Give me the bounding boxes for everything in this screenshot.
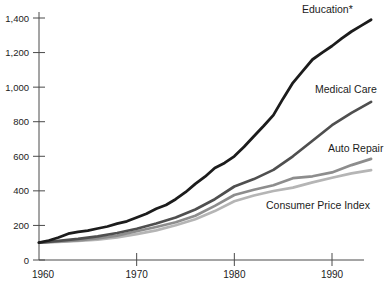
x-axis-tick-label: 1980 <box>223 269 246 280</box>
series-label-consumer-price-index: Consumer Price Index <box>266 199 371 211</box>
x-axis-tick-label: 1970 <box>126 269 149 280</box>
series-label-education: Education* <box>302 3 353 15</box>
y-axis-tick-label: 1,000 <box>5 82 29 93</box>
y-axis-tick-label: 800 <box>13 116 29 127</box>
y-axis-tick-label: 1,400 <box>5 13 29 24</box>
y-axis-tick-label: 1,200 <box>5 47 29 58</box>
x-axis-tick-label: 1990 <box>321 269 344 280</box>
y-axis-tick-label: 400 <box>13 185 29 196</box>
series-label-auto-repair: Auto Repair <box>328 142 384 154</box>
y-axis-tick-label: 200 <box>13 220 29 231</box>
series-line-medical-care <box>39 102 371 243</box>
y-axis-tick-label: 600 <box>13 151 29 162</box>
line-chart-figure: 02004006008001,0001,2001,400196019701980… <box>0 0 384 289</box>
series-label-medical-care: Medical Care <box>315 83 377 95</box>
y-axis-tick-label: 0 <box>24 255 29 266</box>
x-axis-tick-label: 1960 <box>32 269 55 280</box>
price-index-line-chart: 02004006008001,0001,2001,400196019701980… <box>0 0 384 289</box>
